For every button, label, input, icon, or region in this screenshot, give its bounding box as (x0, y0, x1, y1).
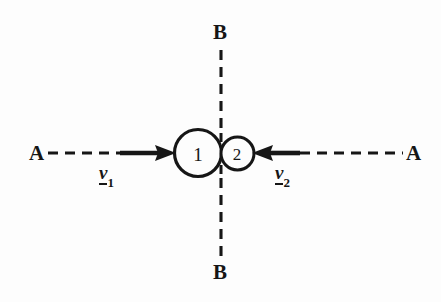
collision-diagram-svg (0, 0, 441, 302)
axis-label-b-top: B (213, 22, 227, 43)
figure-canvas: A A B B 1 2 v1 v2 (0, 0, 441, 302)
velocity-2-arrowhead (252, 145, 273, 161)
velocity-1-label: v1 (99, 163, 114, 186)
axis-label-a-left: A (29, 143, 44, 164)
velocity-1-arrowhead (155, 145, 176, 161)
sphere-1-label: 1 (193, 145, 203, 164)
velocity-2-label: v2 (275, 163, 290, 186)
velocity-2-subscript: 2 (283, 175, 290, 190)
sphere-2-label: 2 (233, 146, 242, 163)
axis-label-b-bottom: B (213, 262, 227, 283)
velocity-1-subscript: 1 (107, 175, 114, 190)
axis-label-a-right: A (406, 143, 421, 164)
